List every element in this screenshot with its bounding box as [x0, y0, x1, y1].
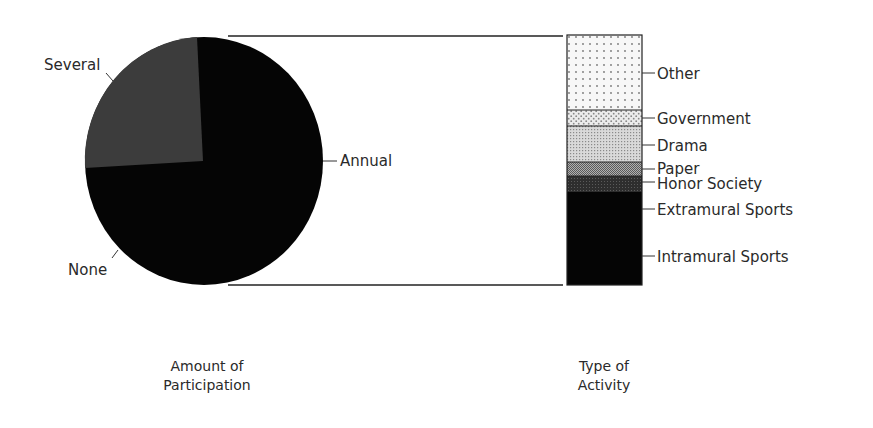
pie-of-bar-chart: Several Annual None Amount of Participat… — [0, 0, 873, 428]
pie-slice-several — [85, 37, 203, 168]
leader-several — [106, 73, 113, 81]
pie-label-annual: Annual — [340, 152, 392, 170]
pie-caption-line1: Amount of — [171, 358, 245, 374]
bar-label-government: Government — [657, 110, 751, 128]
bar-segment-extramural-sports — [567, 192, 642, 226]
bar-label-extramural-sports: Extramural Sports — [657, 201, 793, 219]
bar-label-drama: Drama — [657, 137, 708, 155]
pie-caption-line2: Participation — [163, 377, 250, 393]
bar-caption-line1: Type of — [578, 358, 630, 374]
leader-none — [112, 250, 118, 258]
bar-label-other: Other — [657, 65, 700, 83]
pie-label-several: Several — [44, 56, 100, 74]
bar-label-honor-society: Honor Society — [657, 175, 762, 193]
bar-segment-other — [567, 35, 642, 110]
bar-segment-intramural-sports — [567, 226, 642, 285]
bar-segment-government — [567, 110, 642, 126]
bar-segment-honor-society — [567, 176, 642, 192]
bar-segment-drama — [567, 126, 642, 162]
stacked-bar: Other Government Drama Paper Honor Socie… — [567, 35, 793, 393]
pie-chart: Several Annual None Amount of Participat… — [44, 37, 392, 393]
bar-caption-line2: Activity — [578, 377, 630, 393]
bar-label-intramural-sports: Intramural Sports — [657, 248, 789, 266]
bar-segment-paper — [567, 162, 642, 176]
pie-label-none: None — [68, 261, 107, 279]
